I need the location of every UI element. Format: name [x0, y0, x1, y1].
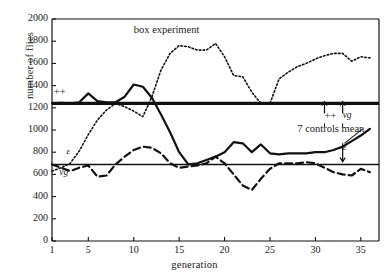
y-tick-label: 1800 [0, 34, 48, 45]
annotation-plus-plus-arrow: ++ [325, 110, 337, 121]
x-tick-label: 30 [295, 244, 335, 255]
annotation-controls-mean: 7 controls mean [297, 123, 364, 134]
y-tick-label: 600 [0, 167, 48, 178]
annotation-epsilon-left: ε [67, 146, 71, 156]
x-tick-label: 5 [68, 244, 108, 255]
x-tick-label: 15 [159, 244, 199, 255]
y-tick-label: 1600 [0, 56, 48, 67]
figure-box-experiment: number of flies generation 0200400600800… [0, 0, 389, 275]
annotation-vg-left: vg [59, 167, 68, 177]
annotation-vg-arrow: vg [343, 110, 352, 120]
x-tick-label: 25 [250, 244, 290, 255]
y-tick-label: 200 [0, 212, 48, 223]
annotation-epsilon-arrow: ε [343, 142, 347, 152]
x-axis-label: generation [0, 259, 389, 270]
chart-canvas [0, 0, 389, 275]
y-tick-label: 800 [0, 145, 48, 156]
y-tick-label: 1200 [0, 101, 48, 112]
annotation-title: box experiment [134, 24, 200, 35]
y-tick-label: 1400 [0, 79, 48, 90]
x-tick-label: 10 [114, 244, 154, 255]
x-tick-label: 20 [205, 244, 245, 255]
y-tick-label: 1000 [0, 123, 48, 134]
y-tick-label: 400 [0, 190, 48, 201]
x-tick-label: 35 [341, 244, 381, 255]
annotation-plus-plus-left: ++ [54, 86, 66, 97]
y-tick-label: 2000 [0, 12, 48, 23]
x-tick-label: 1 [32, 244, 72, 255]
data-series [52, 43, 370, 190]
